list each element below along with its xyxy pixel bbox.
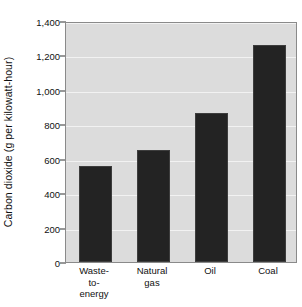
x-axis-category-label-line: gas xyxy=(123,277,181,289)
x-axis-category-label-line: to- xyxy=(65,277,123,289)
y-axis-tick-label: 1,200 xyxy=(16,51,60,62)
x-axis-category-label-line: Waste- xyxy=(65,265,123,277)
bar[interactable] xyxy=(79,166,112,262)
gridline xyxy=(66,23,296,24)
x-axis-category-label-line: energy xyxy=(65,288,123,300)
x-axis-category-label: Oil xyxy=(181,265,239,277)
x-axis-category-label-line: Coal xyxy=(239,265,297,277)
x-axis-category-label-line: Oil xyxy=(181,265,239,277)
x-axis-category-label: Waste-to-energy xyxy=(65,265,123,300)
y-axis-tick-label: 0 xyxy=(16,258,60,269)
x-axis-category-labels: Waste-to-energyNaturalgasOilCoal xyxy=(65,265,297,307)
x-axis-category-label: Coal xyxy=(239,265,297,277)
y-axis-tick-label: 600 xyxy=(16,154,60,165)
y-axis-title-text: Carbon dioxide (g per kilowatt-hour) xyxy=(2,56,14,227)
bar-chart-figure: Carbon dioxide (g per kilowatt-hour) 020… xyxy=(0,0,302,307)
bar[interactable] xyxy=(137,150,170,262)
y-axis-title: Carbon dioxide (g per kilowatt-hour) xyxy=(0,0,16,283)
bar[interactable] xyxy=(195,113,228,262)
y-axis-tick-label: 1,400 xyxy=(16,17,60,28)
x-axis-category-label-line: Natural xyxy=(123,265,181,277)
y-axis-tick-label: 800 xyxy=(16,120,60,131)
y-axis-tick-label: 400 xyxy=(16,189,60,200)
y-axis-tick-label: 1,000 xyxy=(16,85,60,96)
y-axis-tick-labels: 02004006008001,0001,2001,400 xyxy=(16,0,60,307)
y-axis-tick-label: 200 xyxy=(16,223,60,234)
plot-area xyxy=(65,22,297,263)
bar[interactable] xyxy=(253,45,286,262)
x-axis-category-label: Naturalgas xyxy=(123,265,181,288)
